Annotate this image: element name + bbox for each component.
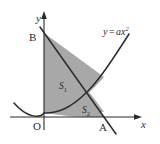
y-axis-label: y [35,12,41,24]
x-axis-label: x [140,118,146,130]
figure-container: y x O B A S1 S2 y=ax2 [0,0,160,144]
equation-equals: = [109,26,115,37]
equation-lhs: y [102,26,108,37]
origin-label: O [33,120,41,132]
region-s1-subscript: 1 [64,86,67,93]
point-b-label: B [29,31,36,43]
curve-equation-label: y=ax2 [102,25,130,37]
region-s2-subscript: 2 [87,110,90,117]
equation-exponent: 2 [126,25,130,32]
y-axis-arrowhead [41,11,47,19]
point-a-label: A [99,121,107,133]
geometry-figure: y x O B A S1 S2 y=ax2 [0,0,160,144]
